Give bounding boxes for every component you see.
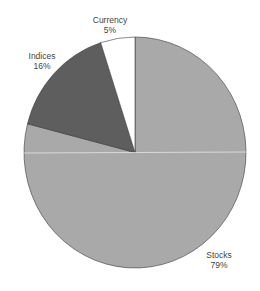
label-stocks: Stocks 79% [202,250,236,270]
label-indices-value: 16% [24,61,60,71]
label-stocks-value: 79% [202,260,236,270]
label-currency: Currency 5% [92,15,128,35]
label-currency-name: Currency [92,15,128,25]
label-currency-value: 5% [92,25,128,35]
pie-chart [0,0,260,291]
label-stocks-name: Stocks [202,250,236,260]
label-indices: Indices 16% [24,51,60,71]
label-indices-name: Indices [24,51,60,61]
